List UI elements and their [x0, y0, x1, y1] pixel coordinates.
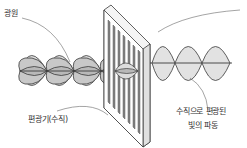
wave-cluster-1	[19, 56, 47, 86]
polarized-lobe-3	[202, 47, 230, 81]
polarizer-edge	[143, 44, 150, 147]
label-polarized-line1: 수직으로 편광된	[176, 107, 226, 117]
leader-polarizer	[57, 106, 108, 115]
leader-polarizer-top	[158, 10, 240, 32]
polarized-wave	[150, 47, 232, 81]
wave-cluster-3	[73, 56, 101, 86]
leader-polarized-wave	[190, 78, 208, 110]
label-light-source: 광원	[4, 9, 18, 19]
label-polarizer: 편광기(수직)	[28, 115, 68, 125]
label-polarized-line2: 빛의 파동	[188, 121, 218, 131]
polarizer	[104, 5, 150, 147]
wave-cluster-2	[46, 56, 74, 86]
polarized-lobe-1	[152, 47, 175, 81]
leader-light-source	[22, 18, 70, 62]
polarized-lobe-2	[175, 47, 202, 81]
polarization-diagram: 광원 편광기(수직) 수직으로 편광된 빛의 파동	[0, 0, 247, 148]
